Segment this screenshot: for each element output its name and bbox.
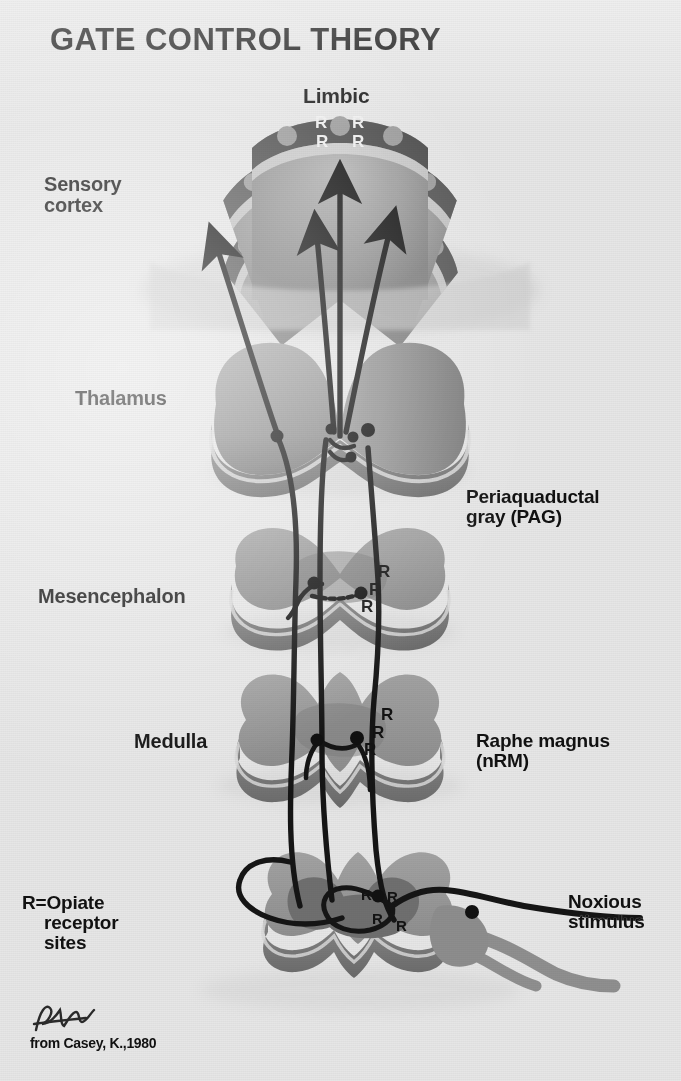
legend-opiate-receptor: R=Opiatereceptorsites xyxy=(22,893,118,953)
tract-spinothalamic-left xyxy=(278,438,300,906)
synapse-primary-afferent xyxy=(465,905,479,919)
tract-ascending-mid xyxy=(320,440,332,900)
page-title: GATE CONTROL THEORY xyxy=(50,24,441,57)
synapse-thalamus-mid xyxy=(326,424,337,435)
artist-signature xyxy=(34,1007,94,1030)
spinal-cord-structure xyxy=(200,852,614,1012)
legend-term-1: Opiate xyxy=(46,892,104,913)
synapse-medulla-nrm xyxy=(350,731,364,745)
label-mesencephalon: Mesencephalon xyxy=(38,586,185,607)
legend-equals: = xyxy=(36,892,47,913)
label-medulla: Medulla xyxy=(134,731,207,752)
legend-term-3: sites xyxy=(22,933,118,953)
synapse-thalamus-right xyxy=(361,423,375,437)
label-noxious-stimulus: Noxious stimulus xyxy=(568,892,645,932)
synapse-dorsal-horn xyxy=(372,890,385,903)
synapse-mesencephalon-left xyxy=(308,577,321,590)
credit-line: from Casey, K.,1980 xyxy=(30,1036,156,1051)
medulla-structure xyxy=(216,672,464,808)
label-thalamus: Thalamus xyxy=(75,388,167,409)
label-raphe-magnus: Raphe magnus (nRM) xyxy=(476,731,610,771)
legend-term-2: receptor xyxy=(22,913,118,933)
synapse-mesencephalon-pag xyxy=(355,587,368,600)
mesencephalon-structure xyxy=(222,528,458,652)
figure-canvas: GATE CONTROL THEORY Limbic Sensory corte… xyxy=(0,0,681,1081)
label-sensory-cortex: Sensory cortex xyxy=(44,174,122,216)
synapse-thalamus-left xyxy=(271,430,284,443)
label-periaqueductal-gray: Periaquaductal gray (PAG) xyxy=(466,487,599,527)
legend-key: R xyxy=(22,892,36,913)
label-limbic: Limbic xyxy=(303,85,369,107)
synapse-medulla-left xyxy=(311,734,324,747)
